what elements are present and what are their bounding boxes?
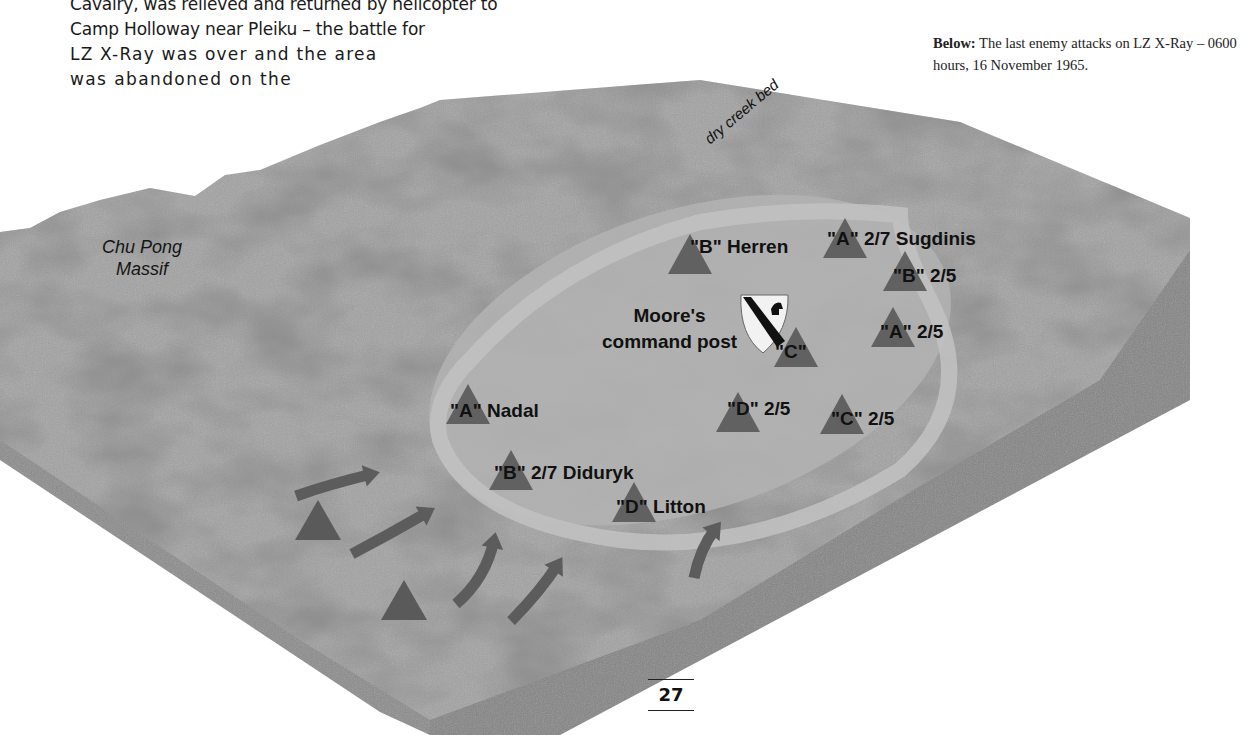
unit-name: 2/5 xyxy=(912,321,944,342)
unit-letter: "B" xyxy=(690,236,722,257)
unit-label-b-2-5: "B" 2/5 xyxy=(893,265,956,287)
unit-label-c-2-5: "C" 2/5 xyxy=(831,408,894,430)
unit-name: Herren xyxy=(722,236,789,257)
unit-label-a-sugdinis: "A" 2/7 Sugdinis xyxy=(827,228,976,250)
unit-label-a-nadal: "A" Nadal xyxy=(450,400,539,422)
unit-letter: "A" xyxy=(827,228,859,249)
unit-letter: "D" xyxy=(616,496,648,517)
unit-letter: "A" xyxy=(880,321,912,342)
unit-letter: "D" xyxy=(727,398,759,419)
unit-label-d-litton: "D" Litton xyxy=(616,496,706,518)
unit-label-d-2-5: "D" 2/5 xyxy=(727,398,790,420)
unit-name: 2/7 Diduryk xyxy=(526,462,634,483)
command-post-label-line2: command post xyxy=(602,329,737,355)
unit-letter: "B" xyxy=(893,265,925,286)
unit-letter: "C" xyxy=(831,408,863,429)
command-post-label-line1: Moore's xyxy=(602,303,737,329)
command-post-label: Moore's command post xyxy=(602,303,737,355)
unit-letter: "C" xyxy=(775,341,807,362)
unit-label-a-2-5: "A" 2/5 xyxy=(880,321,943,343)
unit-letter: "A" xyxy=(450,400,482,421)
book-page: Cavalry, was relieved and returned by he… xyxy=(0,0,1253,735)
chu-pong-massif-label: Chu Pong Massif xyxy=(92,236,192,280)
unit-name: 2/7 Sugdinis xyxy=(859,228,976,249)
unit-name: Litton xyxy=(648,496,706,517)
unit-label-b-didurky: "B" 2/7 Diduryk xyxy=(494,462,633,484)
unit-name: 2/5 xyxy=(863,408,895,429)
page-number: 27 xyxy=(648,679,694,711)
battle-map-terrain-block xyxy=(0,0,1253,735)
unit-name: 2/5 xyxy=(759,398,791,419)
unit-name: 2/5 xyxy=(925,265,957,286)
unit-label-c-cp: "C" xyxy=(775,341,807,363)
unit-label-b-herren: "B" Herren xyxy=(690,236,788,258)
unit-name: Nadal xyxy=(482,400,539,421)
unit-letter: "B" xyxy=(494,462,526,483)
